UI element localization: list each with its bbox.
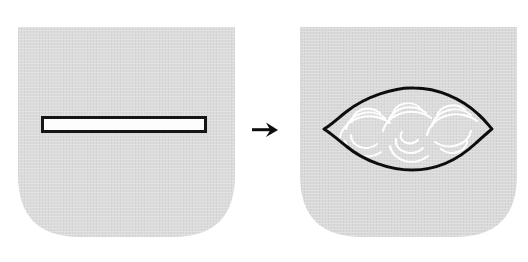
transformation-arrow [252, 123, 278, 138]
slit-rectangle [43, 118, 206, 132]
panel-before [18, 27, 235, 237]
slit-opening [43, 118, 206, 132]
transformation-diagram [0, 0, 528, 262]
panel-after [300, 27, 517, 237]
figure-root [0, 0, 528, 262]
